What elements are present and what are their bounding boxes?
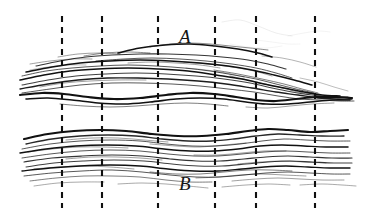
reflector-line [300,78,348,91]
reflector-line [196,174,306,178]
reflector-line [60,103,228,107]
reflector-line [262,56,316,67]
reflector-line [24,129,348,139]
package-label-a: A [179,27,191,46]
seismic-section-figure: A B [0,0,366,219]
reflector-line [288,31,330,36]
reflector-line [256,40,300,44]
faint-artifact-reflectors [222,20,330,48]
package-label-b: B [179,174,191,193]
reflector-line [118,183,208,188]
reflector-line [20,78,352,99]
reflector-line [34,182,104,186]
reflector-lines [20,43,356,188]
reflector-line [300,184,356,186]
reflector-line [232,178,344,181]
reflector-line [230,44,282,48]
